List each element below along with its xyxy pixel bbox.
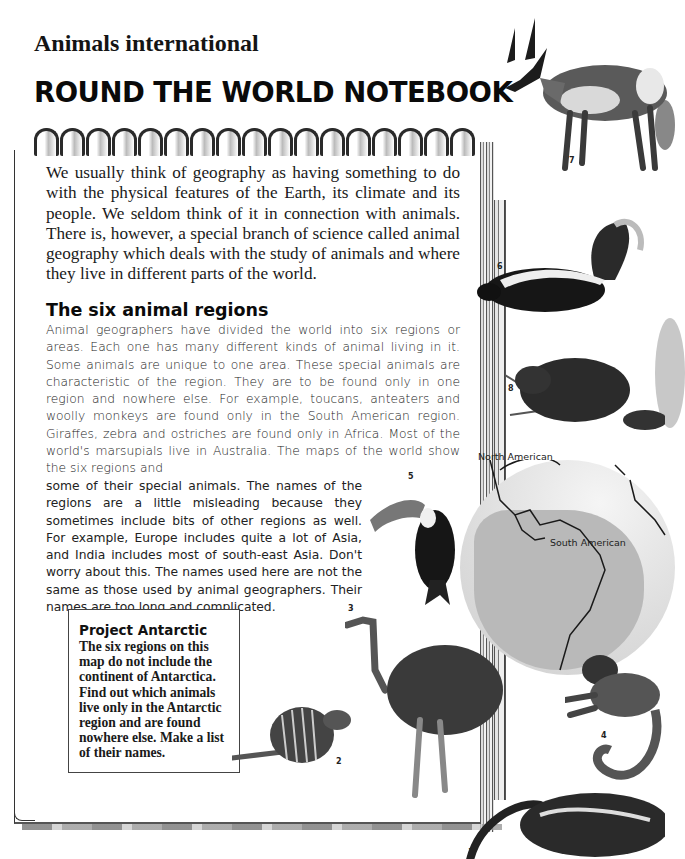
- illustration-number: 4: [601, 731, 607, 740]
- map-label-south-american: South American: [550, 537, 626, 548]
- illustration-number: 3: [348, 604, 354, 613]
- page-corner-curl: [14, 790, 35, 821]
- illustration-number: 2: [336, 757, 342, 766]
- illustration-number: 7: [569, 156, 575, 165]
- illustration-number: 8: [508, 384, 514, 393]
- beaver-illustration: [505, 345, 665, 440]
- project-title: Project Antarctic: [79, 622, 229, 638]
- page-bottom-edge: [22, 824, 502, 830]
- woolly-monkey-illustration: [565, 650, 665, 785]
- body-paragraph-bottom: some of their special animals. The names…: [46, 478, 362, 616]
- project-text: The six regions on this map do not inclu…: [79, 639, 229, 761]
- page-title: ROUND THE WORLD NOTEBOOK: [34, 76, 512, 108]
- project-box: Project Antarctic The six regions on thi…: [68, 609, 240, 773]
- illustration-number: 5: [408, 472, 414, 481]
- illustration-number: 1: [468, 848, 474, 857]
- intro-paragraph: We usually think of geography as having …: [46, 163, 460, 285]
- armadillo-illustration: [232, 690, 352, 780]
- illustration-number: 6: [497, 262, 503, 271]
- anteater-illustration: [460, 780, 665, 859]
- rhea-illustration: [345, 610, 505, 800]
- map-label-north-american: North American: [478, 451, 553, 462]
- section-heading: The six animal regions: [46, 300, 268, 320]
- section-kicker: Animals international: [34, 30, 259, 57]
- body-paragraph-top: Animal geographers have divided the worl…: [46, 322, 460, 478]
- pronghorn-illustration: [485, 8, 675, 178]
- toucan-illustration: [370, 480, 465, 605]
